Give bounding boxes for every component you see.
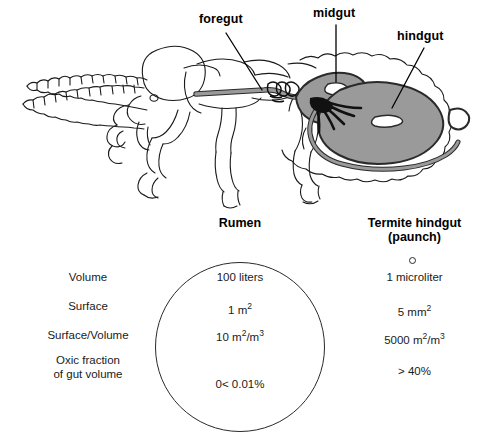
rumen-scale-circle xyxy=(155,262,325,432)
cell-rumen-sv-mid: /m xyxy=(246,331,259,343)
column-header-termite-line1: Termite hindgut xyxy=(340,216,489,230)
cell-termite-volume: 1 microliter xyxy=(340,270,489,284)
cell-termite-surface-number: 5 mm xyxy=(398,306,427,318)
leader-line-foregut xyxy=(226,33,262,90)
cell-rumen-surface-number: 1 m xyxy=(228,304,247,316)
middle-leg xyxy=(215,108,240,208)
column-header-termite-line2: (paunch) xyxy=(340,230,489,244)
paunch-scale-circle xyxy=(409,257,416,264)
cell-rumen-surface: 1 m2 xyxy=(180,299,300,317)
cell-termite-surface-volume: 5000 m2/m3 xyxy=(340,329,489,347)
row-label-surface-volume: Surface/Volume xyxy=(8,328,168,342)
cell-rumen-volume: 100 liters xyxy=(180,270,300,284)
callout-label-foregut: foregut xyxy=(199,12,243,26)
row-label-oxic-line2: of gut volume xyxy=(8,367,168,381)
cell-termite-sv-exponent2: 3 xyxy=(440,331,445,341)
rectum-icon xyxy=(449,108,470,129)
column-header-rumen: Rumen xyxy=(180,216,300,230)
row-label-oxic-fraction: Oxic fraction of gut volume xyxy=(8,353,168,381)
cell-rumen-sv-number: 10 m xyxy=(216,331,242,343)
column-header-termite: Termite hindgut (paunch) xyxy=(340,216,489,244)
hindgut-lumen xyxy=(372,115,403,127)
cell-rumen-surface-volume: 10 m2/m3 xyxy=(180,326,300,344)
hind-leg xyxy=(293,112,320,204)
comparison-table: Rumen Termite hindgut (paunch) Volume Su… xyxy=(0,212,489,433)
row-label-oxic-line1: Oxic fraction xyxy=(8,353,168,367)
cell-rumen-sv-exponent2: 3 xyxy=(259,328,264,338)
insect-anatomy-diagram: foregut midgut hindgut xyxy=(0,0,489,212)
hindgut-structure xyxy=(318,82,443,164)
row-label-surface: Surface xyxy=(8,299,168,313)
cell-termite-surface-exponent: 2 xyxy=(427,303,432,313)
cell-rumen-oxic-fraction: 0< 0.01% xyxy=(180,377,300,391)
front-leg xyxy=(138,110,190,198)
cell-termite-sv-number: 5000 m xyxy=(384,334,422,346)
callout-label-hindgut: hindgut xyxy=(397,29,444,43)
cell-termite-sv-mid: /m xyxy=(427,334,440,346)
cell-termite-surface: 5 mm2 xyxy=(340,301,489,319)
cell-termite-oxic-fraction: > 40% xyxy=(340,364,489,378)
row-label-volume: Volume xyxy=(8,270,168,284)
antenna-lower-icon xyxy=(23,85,144,129)
figure-root: foregut midgut hindgut Rumen Termite hin… xyxy=(0,0,489,433)
cell-rumen-surface-exponent: 2 xyxy=(247,301,252,311)
callout-label-midgut: midgut xyxy=(313,6,355,20)
